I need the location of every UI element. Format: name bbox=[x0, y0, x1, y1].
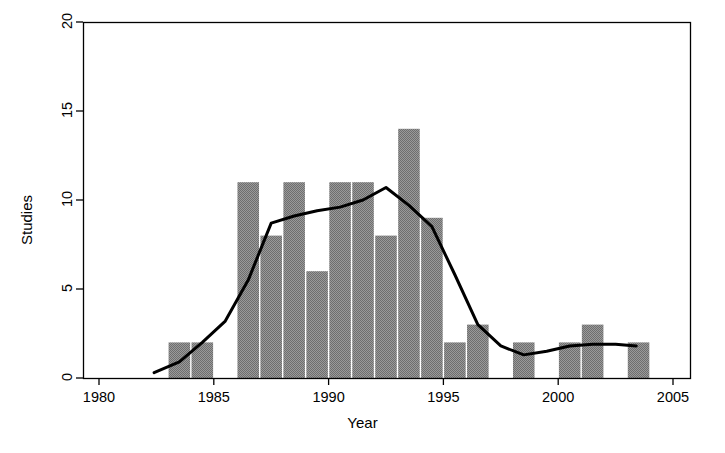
x-tick-label: 2005 bbox=[651, 389, 695, 405]
bar bbox=[375, 236, 397, 378]
bar bbox=[260, 236, 282, 378]
y-axis-title: Studies bbox=[18, 195, 35, 245]
x-tick-label: 2000 bbox=[536, 389, 580, 405]
bar bbox=[582, 325, 604, 378]
x-tick-label: 1990 bbox=[307, 389, 351, 405]
bar bbox=[283, 182, 305, 378]
y-tick-label: 0 bbox=[59, 357, 75, 397]
x-tick-label: 1995 bbox=[421, 389, 465, 405]
x-axis-title: Year bbox=[0, 414, 725, 431]
y-tick-label: 20 bbox=[59, 1, 75, 41]
chart-figure: Studies Year 198019851990199520002005051… bbox=[0, 0, 725, 453]
studies-per-year-chart bbox=[0, 0, 725, 453]
x-tick-label: 1980 bbox=[77, 389, 121, 405]
bar bbox=[513, 342, 535, 378]
bar bbox=[444, 342, 466, 378]
bar bbox=[628, 342, 650, 378]
bar bbox=[306, 271, 328, 378]
y-tick-label: 10 bbox=[59, 179, 75, 219]
bar bbox=[329, 182, 351, 378]
bar bbox=[352, 182, 374, 378]
bars-group bbox=[169, 129, 650, 378]
y-tick-label: 5 bbox=[59, 268, 75, 308]
y-tick-label: 15 bbox=[59, 90, 75, 130]
bar bbox=[398, 129, 420, 378]
x-tick-label: 1985 bbox=[192, 389, 236, 405]
